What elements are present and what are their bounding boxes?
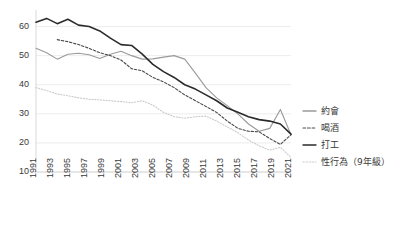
y-tick-label: 40 bbox=[19, 79, 29, 89]
gridlines bbox=[36, 27, 291, 172]
x-tick-label: 1997 bbox=[79, 158, 89, 178]
x-tick-label: 2005 bbox=[147, 158, 157, 178]
chart-legend: 約會喝酒打工性行為（9年級） bbox=[303, 105, 390, 167]
line-chart: 102030405060 199119931995199719992001200… bbox=[0, 0, 413, 230]
legend-label: 喝酒 bbox=[321, 123, 339, 133]
y-tick-label: 20 bbox=[19, 137, 29, 147]
y-axis-tick-labels: 102030405060 bbox=[19, 21, 29, 176]
series-line bbox=[36, 18, 291, 134]
series-line bbox=[36, 48, 291, 134]
x-tick-label: 1995 bbox=[62, 158, 72, 178]
legend-label: 性行為（9年級） bbox=[321, 156, 390, 167]
x-tick-label: 2007 bbox=[164, 158, 174, 178]
x-tick-label: 2019 bbox=[266, 158, 276, 178]
x-tick-label: 1991 bbox=[28, 158, 38, 178]
x-tick-label: 2015 bbox=[232, 158, 242, 178]
x-tick-label: 2013 bbox=[215, 158, 225, 178]
chart-canvas: 102030405060 199119931995199719992001200… bbox=[0, 0, 413, 230]
x-tick-label: 2001 bbox=[113, 158, 123, 178]
x-tick-label: 1993 bbox=[45, 158, 55, 178]
x-tick-label: 2017 bbox=[249, 158, 259, 178]
y-tick-label: 30 bbox=[19, 108, 29, 118]
y-tick-label: 60 bbox=[19, 21, 29, 31]
x-tick-label: 2009 bbox=[181, 158, 191, 178]
legend-label: 打工 bbox=[321, 139, 339, 150]
x-tick-label: 1999 bbox=[96, 158, 106, 178]
x-tick-label: 2021 bbox=[283, 158, 293, 178]
axis-lines bbox=[36, 10, 291, 172]
legend-label: 約會 bbox=[321, 105, 339, 116]
data-series-group bbox=[36, 18, 291, 157]
x-tick-label: 2003 bbox=[130, 158, 140, 178]
x-axis-tick-labels: 1991199319951997199920012003200520072009… bbox=[28, 158, 293, 178]
x-tick-label: 2011 bbox=[198, 159, 208, 178]
y-tick-label: 50 bbox=[19, 50, 29, 60]
series-line bbox=[36, 88, 291, 158]
